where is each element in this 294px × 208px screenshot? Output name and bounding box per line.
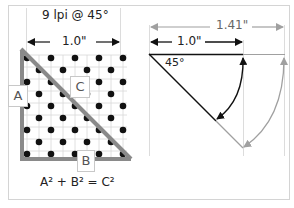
diagonal-length-label: 1.41" bbox=[216, 18, 248, 32]
left-title: 9 lpi @ 45° bbox=[42, 8, 109, 22]
gray-arc-arrow bbox=[244, 58, 284, 147]
angle-label: 45° bbox=[165, 56, 185, 69]
label-c: C bbox=[70, 76, 90, 98]
left-width-label: 1.0" bbox=[62, 34, 87, 48]
black-arc-arrow bbox=[217, 58, 243, 119]
diagram-frame: 9 lpi @ 45° 1.0" A C B A² + B² = C² 1.41… bbox=[0, 0, 294, 208]
pythagorean-formula: A² + B² = C² bbox=[40, 175, 115, 189]
diagonal-line-gray bbox=[216, 121, 243, 148]
side-length-label: 1.0" bbox=[177, 34, 202, 48]
label-b: B bbox=[77, 150, 95, 172]
label-a: A bbox=[8, 85, 28, 107]
